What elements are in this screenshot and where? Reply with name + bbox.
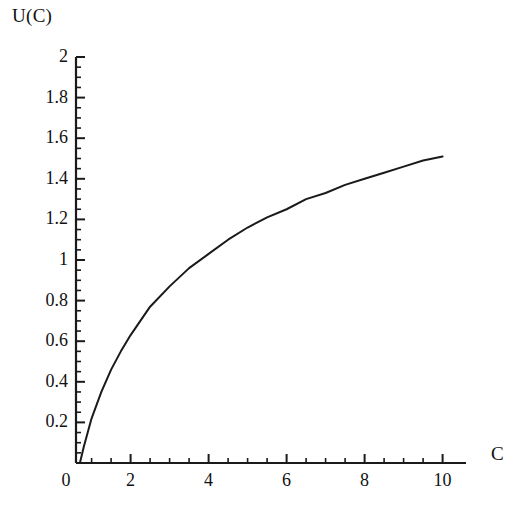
- chart-canvas: U(C) C 02468100.20.40.60.811.21.41.61.82: [0, 0, 521, 513]
- x-tick-label: 0: [46, 471, 86, 489]
- x-tick-label: 6: [267, 471, 307, 489]
- y-tick-label: 0.8: [20, 291, 68, 309]
- x-tick-label: 8: [345, 471, 385, 489]
- plot-area: [0, 0, 521, 513]
- y-tick-label: 1: [20, 250, 68, 268]
- y-tick-label: 1.4: [20, 169, 68, 187]
- y-tick-label: 0.2: [20, 412, 68, 430]
- axes-group: [76, 57, 466, 463]
- y-tick-label: 0.6: [20, 331, 68, 349]
- series-line: [80, 156, 443, 463]
- data-series-group: [80, 156, 443, 463]
- y-tick-label: 0.4: [20, 372, 68, 390]
- y-tick-label: 1.6: [20, 128, 68, 146]
- x-tick-label: 2: [111, 471, 151, 489]
- tick-marks-group: [76, 57, 443, 463]
- y-tick-label: 1.2: [20, 209, 68, 227]
- y-tick-label: 1.8: [20, 88, 68, 106]
- y-tick-label: 2: [20, 47, 68, 65]
- x-tick-label: 4: [189, 471, 229, 489]
- x-tick-label: 10: [423, 471, 463, 489]
